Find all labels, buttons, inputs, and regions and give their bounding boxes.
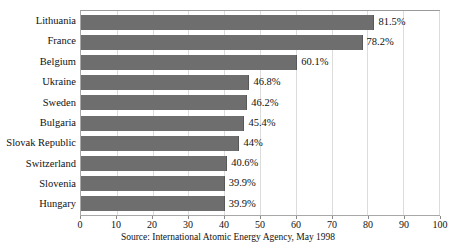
- bar[interactable]: [81, 15, 374, 30]
- gridline-100: [439, 11, 440, 215]
- bar[interactable]: [81, 136, 239, 151]
- bar[interactable]: [81, 156, 227, 171]
- bar-row: 60.1%: [81, 55, 439, 70]
- bar-row: 40.6%: [81, 156, 439, 171]
- category-label: France: [0, 34, 76, 49]
- bar-value-label: 44%: [239, 138, 262, 149]
- x-tick-label: 50: [255, 220, 265, 230]
- bar-value-label: 40.6%: [227, 158, 258, 169]
- bar-row: 81.5%: [81, 15, 439, 30]
- x-tick-label: 10: [111, 220, 121, 230]
- x-tick-label: 0: [78, 220, 83, 230]
- category-label: Bulgaria: [0, 116, 76, 131]
- x-tick-label: 20: [147, 220, 157, 230]
- bar-rows: 81.5%78.2%60.1%46.8%46.2%45.4%44%40.6%39…: [81, 11, 439, 215]
- x-tick-label: 80: [363, 220, 373, 230]
- bar-value-label: 60.1%: [297, 57, 328, 68]
- bar-value-label: 46.2%: [247, 98, 278, 109]
- x-tick-label: 30: [183, 220, 193, 230]
- bar-row: 45.4%: [81, 116, 439, 131]
- bar-value-label: 78.2%: [363, 37, 394, 48]
- x-tick-label: 90: [399, 220, 409, 230]
- bar[interactable]: [81, 196, 225, 211]
- bar-row: 44%: [81, 136, 439, 151]
- bar-row: 46.2%: [81, 95, 439, 110]
- bar[interactable]: [81, 55, 297, 70]
- bar-row: 39.9%: [81, 196, 439, 211]
- category-label: Switzerland: [0, 156, 76, 171]
- category-axis-labels: LithuaniaFranceBelgiumUkraineSwedenBulga…: [0, 10, 76, 216]
- category-label: Slovenia: [0, 177, 76, 192]
- x-tick-label: 70: [327, 220, 337, 230]
- category-label: Slovak Republic: [0, 136, 76, 151]
- category-label: Sweden: [0, 95, 76, 110]
- category-label: Belgium: [0, 54, 76, 69]
- bar[interactable]: [81, 95, 247, 110]
- bar-value-label: 39.9%: [225, 178, 256, 189]
- category-label: Lithuania: [0, 14, 76, 29]
- x-axis: 0102030405060708090100: [80, 216, 440, 232]
- bar-chart-figure: LithuaniaFranceBelgiumUkraineSwedenBulga…: [0, 0, 456, 252]
- bar-value-label: 46.8%: [249, 77, 280, 88]
- x-tick-label: 60: [291, 220, 301, 230]
- bar-value-label: 39.9%: [225, 199, 256, 210]
- source-note: Source: International Atomic Energy Agen…: [0, 233, 456, 243]
- bar-row: 39.9%: [81, 176, 439, 191]
- x-tick-label: 40: [219, 220, 229, 230]
- bar-value-label: 81.5%: [374, 17, 405, 28]
- plot-area: 81.5%78.2%60.1%46.8%46.2%45.4%44%40.6%39…: [80, 10, 440, 216]
- category-label: Hungary: [0, 197, 76, 212]
- bar-row: 46.8%: [81, 75, 439, 90]
- bar-value-label: 45.4%: [244, 118, 275, 129]
- bar[interactable]: [81, 116, 244, 131]
- bar[interactable]: [81, 75, 249, 90]
- category-label: Ukraine: [0, 75, 76, 90]
- bar-row: 78.2%: [81, 35, 439, 50]
- bar[interactable]: [81, 176, 225, 191]
- bar[interactable]: [81, 35, 363, 50]
- x-tick-label: 100: [433, 220, 448, 230]
